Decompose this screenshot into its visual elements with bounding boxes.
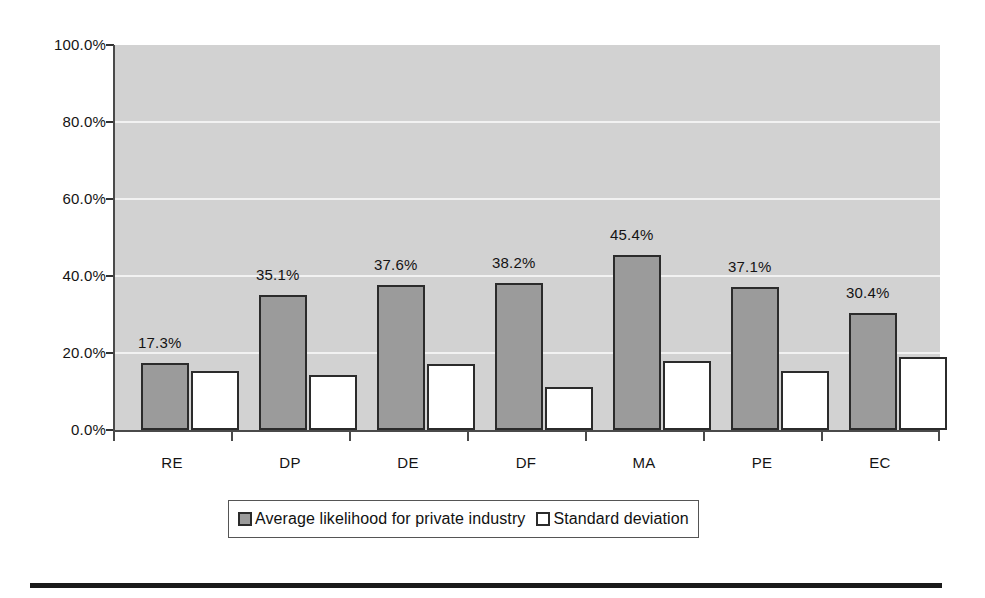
legend-item-average-likelihood[interactable]: Average likelihood for private industry: [238, 510, 525, 528]
bar-group-df: 38.2%: [495, 45, 599, 430]
bar-value-label: 38.2%: [492, 254, 536, 271]
x-tick-mark: [467, 432, 469, 441]
bar-standard-deviation[interactable]: [191, 371, 239, 430]
bar-group-pe: 37.1%: [731, 45, 835, 430]
legend-swatch-icon: [238, 512, 252, 526]
bar-value-label: 45.4%: [610, 226, 654, 243]
y-tick-label: 60.0%: [14, 190, 106, 207]
bar-group-re: 17.3%: [141, 45, 245, 430]
y-tick-label: 0.0%: [14, 421, 106, 438]
legend-item-label: Standard deviation: [553, 510, 688, 528]
x-tick-mark: [349, 432, 351, 441]
bar-standard-deviation[interactable]: [427, 364, 475, 430]
chart-legend: Average likelihood for private industry …: [228, 500, 699, 538]
bar-average-likelihood[interactable]: [141, 363, 189, 430]
y-axis: 100.0% 80.0% 60.0% 40.0% 20.0% 0.0%: [8, 0, 106, 598]
bar-group-de: 37.6%: [377, 45, 481, 430]
bar-group-ma: 45.4%: [613, 45, 717, 430]
x-tick-label-pe: PE: [703, 454, 821, 471]
x-tick-label-ec: EC: [821, 454, 939, 471]
y-tick-label: 20.0%: [14, 344, 106, 361]
bottom-divider: [30, 583, 942, 588]
x-tick-label-re: RE: [113, 454, 231, 471]
x-tick-mark: [231, 432, 233, 441]
legend-item-label: Average likelihood for private industry: [255, 510, 525, 528]
bar-group-dp: 35.1%: [259, 45, 363, 430]
x-tick-label-df: DF: [467, 454, 585, 471]
bar-average-likelihood[interactable]: [495, 283, 543, 430]
bar-chart-figure: 100.0% 80.0% 60.0% 40.0% 20.0% 0.0% 17.3…: [0, 0, 985, 598]
x-tick-mark: [821, 432, 823, 441]
bar-value-label: 37.6%: [374, 256, 418, 273]
y-tick-label: 80.0%: [14, 113, 106, 130]
plot-area: 17.3% 35.1% 37.6% 38.2%: [113, 45, 940, 432]
y-tick-label: 40.0%: [14, 267, 106, 284]
bar-standard-deviation[interactable]: [663, 361, 711, 430]
bar-group-ec: 30.4%: [849, 45, 953, 430]
bar-average-likelihood[interactable]: [849, 313, 897, 430]
bar-average-likelihood[interactable]: [731, 287, 779, 430]
x-tick-label-de: DE: [349, 454, 467, 471]
bar-value-label: 30.4%: [846, 284, 890, 301]
bar-value-label: 17.3%: [138, 334, 182, 351]
x-tick-label-dp: DP: [231, 454, 349, 471]
x-tick-mark: [703, 432, 705, 441]
bar-standard-deviation[interactable]: [309, 375, 357, 430]
bar-average-likelihood[interactable]: [377, 285, 425, 430]
bar-standard-deviation[interactable]: [899, 357, 947, 430]
x-axis: RE DP DE DF MA PE EC: [113, 432, 940, 482]
x-tick-mark: [585, 432, 587, 441]
y-tick-label: 100.0%: [14, 36, 106, 53]
bar-value-label: 37.1%: [728, 258, 772, 275]
legend-swatch-icon: [536, 512, 550, 526]
bars-layer: 17.3% 35.1% 37.6% 38.2%: [115, 45, 940, 430]
bar-value-label: 35.1%: [256, 266, 300, 283]
bar-standard-deviation[interactable]: [781, 371, 829, 430]
bar-average-likelihood[interactable]: [259, 295, 307, 430]
bar-standard-deviation[interactable]: [545, 387, 593, 430]
x-tick-mark: [938, 432, 940, 441]
legend-item-standard-deviation[interactable]: Standard deviation: [536, 510, 688, 528]
x-tick-label-ma: MA: [585, 454, 703, 471]
x-tick-mark: [113, 432, 115, 441]
bar-average-likelihood[interactable]: [613, 255, 661, 430]
